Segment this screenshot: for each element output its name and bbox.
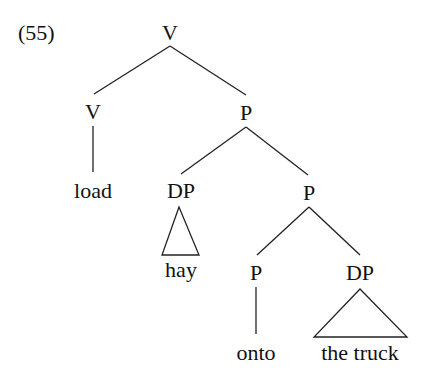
branch-root-p [170,46,246,95]
example-number: (55) [18,22,55,44]
branch-p-dp [181,127,246,174]
leaf-load: load [74,180,112,202]
leaf-onto: onto [236,342,275,364]
branch-p-dp-truck [309,207,360,255]
branch-root-v [94,46,170,94]
leaf-the-truck: the truck [321,342,399,364]
branch-p-phead [257,207,309,255]
triangle-hay [162,207,199,255]
tree-branches [0,0,428,384]
triangle-truck [314,289,407,337]
node-p-head: P [250,262,262,284]
node-p-mid: P [303,182,315,204]
node-dp-truck: DP [346,262,374,284]
node-p-top: P [240,102,252,124]
branch-p-p [246,127,308,175]
node-dp-hay: DP [167,180,195,202]
node-v-head: V [85,101,101,123]
leaf-hay: hay [165,259,197,281]
node-root-v: V [162,22,178,44]
